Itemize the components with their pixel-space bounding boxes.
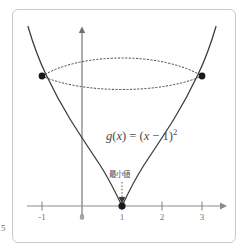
equation-equals: = [126, 129, 139, 143]
lens-lower-arc [42, 76, 202, 90]
x-tick-label-0: 0 [72, 213, 92, 222]
figure-page: g(x) = (x − 1)2 最小値 -1 0 1 2 3 5 [0, 0, 246, 252]
x-tick-label-3: 3 [192, 213, 212, 222]
x-tick-label-2: 2 [152, 213, 172, 222]
equation-minus: − [149, 129, 162, 143]
x-tick-label-neg1: -1 [32, 213, 52, 222]
marked-point-right [199, 73, 206, 80]
lens-upper-arc [42, 58, 202, 76]
y-axis [79, 27, 85, 220]
marked-point-left [39, 73, 46, 80]
x-axis-arrow-icon [220, 203, 227, 210]
y-axis-arrow-icon [79, 27, 85, 34]
function-equation-label: g(x) = (x − 1)2 [106, 128, 177, 143]
x-tick-label-1: 1 [112, 213, 132, 222]
parabola-curve [28, 27, 216, 207]
minimum-value-label: 最小値 [101, 171, 137, 179]
dotted-lens [42, 58, 202, 90]
equation-exponent: 2 [173, 127, 177, 137]
page-marker: 5 [1, 224, 6, 233]
x-axis [27, 203, 227, 210]
vertex-point [118, 202, 125, 209]
